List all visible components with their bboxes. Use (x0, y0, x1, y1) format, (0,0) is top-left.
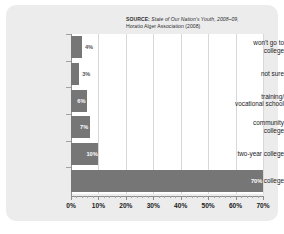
x-tick-minor (214, 196, 215, 198)
x-tick-minor (192, 196, 193, 198)
x-tick-minor (230, 196, 231, 198)
category-label-line: won't go to (220, 39, 284, 47)
x-tick-label: 30% (138, 202, 168, 209)
source-credit: SOURCE: State of Our Nation's Youth, 200… (126, 16, 266, 31)
x-tick-minor (252, 196, 253, 198)
x-tick (263, 196, 264, 200)
source-label: SOURCE: (126, 16, 150, 22)
x-tick-minor (93, 196, 94, 198)
x-tick-label: 40% (166, 202, 196, 209)
x-tick-minor (164, 196, 165, 198)
x-tick-minor (258, 196, 259, 198)
category-label-line: training/ (220, 93, 284, 101)
chart-figure: SOURCE: State of Our Nation's Youth, 200… (0, 0, 284, 234)
x-tick-label: 0% (56, 202, 86, 209)
category-label: won't go tocollege (220, 39, 284, 54)
y-tick (66, 141, 71, 142)
x-tick-minor (247, 196, 248, 198)
y-tick (66, 87, 71, 88)
x-tick-minor (82, 196, 83, 198)
bar-value-label: 70% (251, 170, 261, 192)
x-tick (71, 196, 72, 200)
y-tick (66, 34, 71, 35)
category-label: not sure (220, 70, 284, 78)
y-tick (66, 114, 71, 115)
x-tick (181, 196, 182, 200)
x-tick-minor (148, 196, 149, 198)
bar-value-label: 6% (75, 90, 85, 112)
bar[interactable] (71, 170, 263, 192)
bar[interactable] (71, 36, 82, 58)
x-tick (153, 196, 154, 200)
x-tick-label: 20% (111, 202, 141, 209)
x-tick-minor (225, 196, 226, 198)
x-tick-label: 10% (83, 202, 113, 209)
bar[interactable] (71, 63, 79, 85)
x-tick-minor (186, 196, 187, 198)
category-label: two-year college (220, 150, 284, 158)
y-tick (66, 61, 71, 62)
y-tick (66, 167, 71, 168)
source-title: State of Our Nation's Youth, 2008–09, (150, 16, 239, 22)
x-tick-minor (241, 196, 242, 198)
x-tick-label: 70% (248, 202, 278, 209)
bar-value-label: 10% (86, 143, 96, 165)
category-label-line: not sure (220, 70, 284, 78)
x-tick-minor (87, 196, 88, 198)
x-tick-minor (104, 196, 105, 198)
category-label: communitycollege (220, 119, 284, 134)
x-tick-label: 50% (193, 202, 223, 209)
x-tick-label: 60% (221, 202, 251, 209)
x-tick-minor (197, 196, 198, 198)
category-label-line: college (220, 47, 284, 55)
x-tick-minor (175, 196, 176, 198)
category-label: training/vocational school (220, 93, 284, 108)
x-tick (98, 196, 99, 200)
x-tick (126, 196, 127, 200)
bar-value-label: 3% (82, 63, 90, 85)
bar-value-label: 4% (85, 36, 93, 58)
x-tick-minor (203, 196, 204, 198)
x-tick (208, 196, 209, 200)
bar-value-label: 7% (78, 116, 88, 138)
source-organization: Horatio Alger Association (2008) (126, 23, 200, 29)
x-tick-minor (76, 196, 77, 198)
x-tick-minor (131, 196, 132, 198)
category-label-line: college (220, 127, 284, 135)
category-label-line: community (220, 119, 284, 127)
x-tick-minor (142, 196, 143, 198)
x-tick-minor (120, 196, 121, 198)
x-tick-minor (109, 196, 110, 198)
x-tick-minor (170, 196, 171, 198)
x-tick-minor (115, 196, 116, 198)
gridline (263, 34, 264, 194)
category-label-line: two-year college (220, 150, 284, 158)
x-tick (236, 196, 237, 200)
x-tick-minor (137, 196, 138, 198)
x-tick-minor (219, 196, 220, 198)
category-label-line: vocational school (220, 100, 284, 108)
x-tick-minor (159, 196, 160, 198)
